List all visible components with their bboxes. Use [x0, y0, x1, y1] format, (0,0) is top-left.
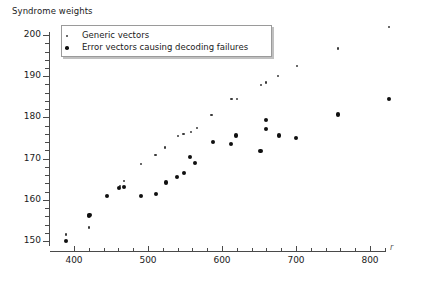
- x-minor-tick: [252, 248, 253, 252]
- x-minor-tick: [326, 248, 327, 252]
- y-minor-tick: [45, 101, 50, 102]
- legend-marker-error-vectors: [65, 46, 69, 50]
- x-axis-line: [50, 251, 385, 252]
- x-tick-label-700: 700: [276, 255, 316, 265]
- y-minor-tick: [45, 183, 50, 184]
- data-point: [65, 233, 67, 235]
- x-tick-400: [74, 246, 75, 252]
- y-minor-tick: [45, 93, 50, 94]
- data-point: [182, 171, 186, 175]
- data-point: [294, 136, 298, 140]
- y-minor-tick: [45, 150, 50, 151]
- y-minor-tick: [45, 233, 50, 234]
- data-point: [193, 161, 197, 165]
- y-minor-tick: [45, 225, 50, 226]
- y-tick-label-150: 150: [1, 235, 41, 245]
- y-minor-tick: [45, 134, 50, 135]
- data-point: [164, 146, 166, 148]
- x-minor-tick: [89, 248, 90, 252]
- data-point: [190, 131, 192, 133]
- x-minor-tick: [281, 248, 282, 252]
- y-minor-tick: [45, 216, 50, 217]
- page-title: Syndrome weights: [12, 6, 93, 16]
- y-minor-tick: [45, 175, 50, 176]
- x-minor-tick: [237, 248, 238, 252]
- x-tick-700: [296, 246, 297, 252]
- data-point: [122, 185, 126, 189]
- data-point: [258, 149, 262, 153]
- x-minor-tick: [207, 248, 208, 252]
- y-tick-190: [43, 76, 50, 77]
- data-point: [277, 133, 281, 137]
- x-minor-tick: [118, 248, 119, 252]
- y-minor-tick: [45, 192, 50, 193]
- y-minor-tick: [45, 142, 50, 143]
- x-minor-tick: [355, 248, 356, 252]
- legend: Generic vectors Error vectors causing de…: [61, 25, 272, 57]
- y-minor-tick: [45, 60, 50, 61]
- data-point: [296, 65, 298, 67]
- x-minor-tick: [104, 248, 105, 252]
- data-point: [211, 140, 215, 144]
- data-point: [175, 175, 179, 179]
- data-point: [234, 133, 238, 137]
- x-minor-tick: [192, 248, 193, 252]
- x-minor-tick: [178, 248, 179, 252]
- data-point: [277, 75, 279, 77]
- data-point: [139, 194, 143, 198]
- y-tick-label-170: 170: [1, 153, 41, 163]
- scatter-chart: Syndrome weights 150160170180190200 4005…: [0, 0, 424, 290]
- data-point: [260, 84, 262, 86]
- x-tick-800: [370, 246, 371, 252]
- data-point: [336, 112, 340, 116]
- data-point: [154, 192, 158, 196]
- x-axis-label: r: [390, 243, 393, 252]
- y-minor-tick: [45, 52, 50, 53]
- x-tick-label-400: 400: [54, 255, 94, 265]
- y-axis-line: [49, 32, 50, 246]
- data-point: [123, 180, 125, 182]
- x-minor-tick: [266, 248, 267, 252]
- data-point: [236, 98, 238, 100]
- x-tick-label-500: 500: [128, 255, 168, 265]
- x-tick-label-600: 600: [202, 255, 242, 265]
- legend-label-error-vectors: Error vectors causing decoding failures: [82, 41, 248, 54]
- y-tick-label-160: 160: [1, 194, 41, 204]
- data-point: [264, 127, 268, 131]
- x-tick-600: [222, 246, 223, 252]
- y-minor-tick: [45, 208, 50, 209]
- data-point: [388, 26, 390, 28]
- y-minor-tick: [45, 167, 50, 168]
- data-point: [387, 97, 391, 101]
- data-point: [140, 163, 142, 165]
- data-point: [229, 142, 233, 146]
- x-minor-tick: [385, 248, 386, 252]
- y-minor-tick: [45, 126, 50, 127]
- data-point: [64, 239, 68, 243]
- data-point: [210, 114, 212, 116]
- y-tick-label-190: 190: [1, 70, 41, 80]
- y-tick-150: [43, 241, 50, 242]
- y-tick-160: [43, 200, 50, 201]
- x-minor-tick: [340, 248, 341, 252]
- x-minor-tick: [311, 248, 312, 252]
- data-point: [164, 180, 168, 184]
- y-tick-180: [43, 117, 50, 118]
- y-tick-170: [43, 159, 50, 160]
- y-minor-tick: [45, 109, 50, 110]
- data-point: [264, 118, 268, 122]
- y-tick-200: [43, 35, 50, 36]
- data-point: [188, 155, 192, 159]
- data-point: [117, 186, 121, 190]
- x-minor-tick: [133, 248, 134, 252]
- legend-marker-generic-vectors: [66, 35, 68, 37]
- data-point: [230, 98, 232, 100]
- x-tick-500: [148, 246, 149, 252]
- y-tick-label-200: 200: [1, 29, 41, 39]
- data-point: [177, 135, 179, 137]
- data-point: [87, 213, 91, 217]
- x-minor-tick: [163, 248, 164, 252]
- data-point: [265, 81, 267, 83]
- y-minor-tick: [45, 68, 50, 69]
- data-point: [337, 47, 339, 49]
